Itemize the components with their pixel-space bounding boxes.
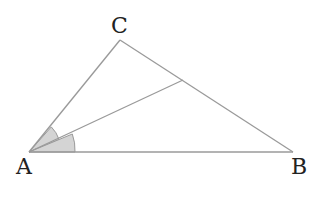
vertex-label-a: A xyxy=(15,154,33,179)
vertex-label-b: B xyxy=(291,154,307,179)
side-cb xyxy=(120,40,293,152)
triangle-diagram: C A B xyxy=(0,0,329,199)
vertex-label-c: C xyxy=(111,13,128,38)
angle-bisector xyxy=(29,80,183,152)
side-ac xyxy=(29,40,120,152)
